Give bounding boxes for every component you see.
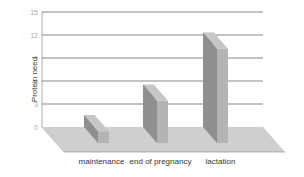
y-tick-label: 0 xyxy=(34,124,38,131)
bar-right-face xyxy=(157,101,168,143)
y-tick-label: 15 xyxy=(30,9,38,16)
bar-side xyxy=(203,33,217,143)
x-category-label: end of pregnancy xyxy=(130,157,192,166)
y-axis-label: Protein need xyxy=(30,57,39,102)
bar-right-face xyxy=(98,132,109,144)
x-category-label: maintenance xyxy=(79,157,125,166)
y-tick-label: 12 xyxy=(30,32,38,39)
x-category-label: lactation xyxy=(206,157,236,166)
bar-right-face xyxy=(217,49,228,143)
protein-need-chart: 03691215Protein needmaintenanceend of pr… xyxy=(0,0,304,177)
